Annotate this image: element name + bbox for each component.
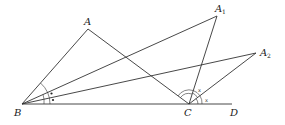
label-A2-subscript: 2 bbox=[267, 52, 271, 59]
segment-AC bbox=[88, 29, 189, 104]
angle-mark-x-2: x bbox=[205, 97, 208, 103]
segment-BA1 bbox=[22, 16, 217, 104]
label-D: D bbox=[229, 107, 238, 118]
segments bbox=[22, 16, 256, 104]
geometry-diagram: x x A A 1 A 2 B C D bbox=[0, 0, 285, 125]
label-B: B bbox=[13, 107, 21, 118]
segment-AB bbox=[22, 29, 88, 104]
segment-BA2 bbox=[22, 53, 256, 104]
label-A1-subscript: 1 bbox=[222, 8, 226, 15]
label-A: A bbox=[83, 16, 91, 27]
angle-dot-B-2 bbox=[52, 99, 54, 101]
arc-C-A1CA2 bbox=[193, 93, 198, 98]
label-A1: A bbox=[214, 3, 222, 14]
arc-C-ACA1 bbox=[181, 93, 193, 97]
arc-C-A2CD bbox=[196, 99, 198, 105]
label-C: C bbox=[184, 107, 192, 118]
angle-mark-x-1: x bbox=[198, 87, 201, 93]
angle-dot-B-1 bbox=[50, 92, 52, 94]
label-A2: A bbox=[259, 47, 267, 58]
